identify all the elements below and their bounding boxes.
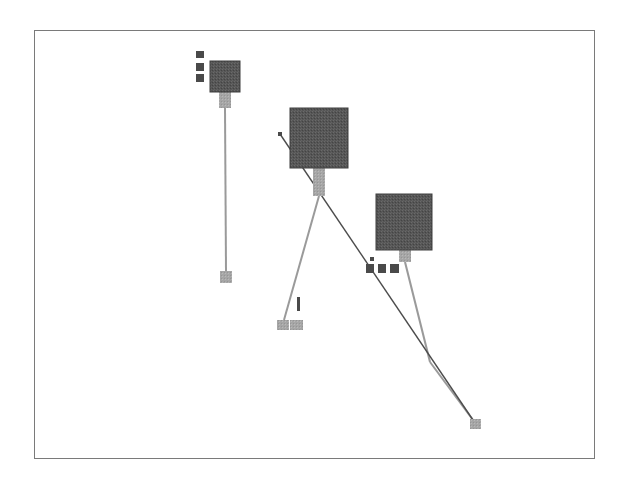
hub-c-stem	[399, 250, 411, 262]
hub-a-stem	[219, 92, 231, 108]
hub-a-node[interactable]	[210, 61, 240, 92]
hub-b-stem	[313, 168, 325, 196]
leaf-b-1-node[interactable]	[277, 320, 289, 330]
hub-a-port-2-node[interactable]	[196, 63, 204, 71]
leaf-a-node[interactable]	[220, 271, 232, 283]
edge-a-line	[225, 108, 226, 271]
hub-b-pin-node[interactable]	[278, 132, 282, 136]
hub-b-node[interactable]	[290, 108, 348, 168]
hub-c-port-2-node[interactable]	[378, 264, 386, 273]
leaf-c-node[interactable]	[470, 419, 481, 429]
edges	[225, 108, 475, 423]
hub-c-port-1-node[interactable]	[366, 264, 374, 273]
edge-c-line	[405, 262, 430, 362]
marker-node[interactable]	[297, 297, 300, 311]
hub-a-port-1-node[interactable]	[196, 51, 204, 58]
hub-c-port-3-node[interactable]	[390, 264, 399, 273]
hub-a-port-3-node[interactable]	[196, 74, 204, 82]
hub-c-node[interactable]	[376, 194, 432, 250]
network-diagram	[0, 0, 619, 484]
edge-b-line	[284, 196, 319, 320]
edge-long-line	[280, 134, 475, 423]
leaf-b-2-node[interactable]	[290, 320, 303, 330]
hub-c-port-tiny-node[interactable]	[370, 257, 374, 261]
